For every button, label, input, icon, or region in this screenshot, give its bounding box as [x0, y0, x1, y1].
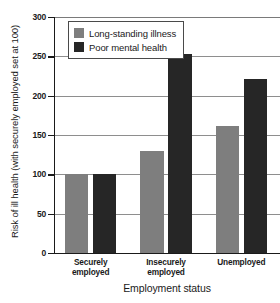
bar — [168, 54, 192, 253]
x-axis-title: Employment status — [54, 282, 280, 294]
bar-chart: Risk of ill health (with securely employ… — [0, 0, 280, 303]
legend-swatch-icon — [74, 42, 84, 52]
y-tick-label: 250 — [6, 51, 46, 61]
bar — [65, 174, 89, 253]
bar — [244, 79, 268, 253]
y-tick-label: 50 — [6, 209, 46, 219]
legend: Long-standing illness Poor mental health — [68, 21, 184, 59]
y-tick-label: 300 — [6, 12, 46, 22]
y-tick-label: 150 — [6, 130, 46, 140]
legend-swatch-icon — [74, 28, 84, 38]
legend-item: Long-standing illness — [74, 26, 176, 40]
legend-item: Poor mental health — [74, 40, 176, 54]
y-tick-label: 0 — [6, 248, 46, 258]
bar — [216, 126, 240, 253]
x-tick-label: Unemployed — [196, 257, 280, 267]
legend-label: Poor mental health — [89, 42, 167, 53]
bar — [93, 174, 117, 253]
y-tick-label: 100 — [6, 169, 46, 179]
bar — [140, 151, 164, 253]
legend-label: Long-standing illness — [89, 28, 176, 39]
y-tick-label: 200 — [6, 91, 46, 101]
